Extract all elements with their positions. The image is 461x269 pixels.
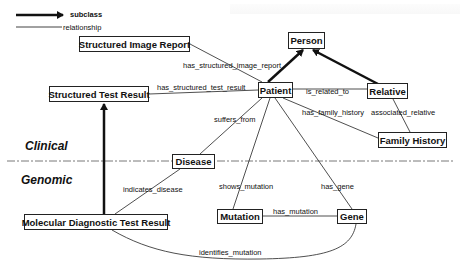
edge-label-identifies-mutation: identifies_mutation bbox=[199, 249, 262, 257]
edge-label-shows-mutation: shows_mutation bbox=[219, 183, 273, 191]
node-relative[interactable]: Relative bbox=[367, 83, 408, 99]
legend-relationship-label: relationship bbox=[63, 23, 101, 32]
node-mutation[interactable]: Mutation bbox=[217, 209, 263, 224]
relative-subclass-person bbox=[313, 50, 378, 84]
section-label-clinical: Clinical bbox=[25, 139, 68, 153]
node-person[interactable]: Person bbox=[288, 32, 325, 49]
node-molecular-diagnostic-test-result[interactable]: Molecular Diagnostic Test Result bbox=[24, 214, 168, 230]
node-gene[interactable]: Gene bbox=[337, 209, 367, 224]
edge-label-has-structured-image-report: has_structured_image_report bbox=[183, 62, 281, 70]
edge-label-is-related-to: is_related_to bbox=[306, 88, 349, 96]
edge-label-has-mutation: has_mutation bbox=[273, 208, 318, 216]
edge-has-family-history bbox=[283, 98, 378, 138]
ontology-diagram: subclass relationship Clinical Genomic S… bbox=[0, 0, 461, 269]
legend-subclass-label: subclass bbox=[70, 10, 102, 19]
node-disease[interactable]: Disease bbox=[172, 154, 215, 169]
node-patient[interactable]: Patient bbox=[258, 82, 293, 98]
edge-suffers-from bbox=[200, 98, 262, 154]
edge-label-associated-relative: associated_relative bbox=[371, 109, 435, 117]
node-family-history[interactable]: Family History bbox=[378, 132, 447, 148]
edge-label-has-structured-test-result: has_structured_test_result bbox=[157, 84, 245, 92]
edge-label-has-family-history: has_family_history bbox=[302, 109, 364, 117]
node-structured-test-result[interactable]: Structured Test Result bbox=[49, 86, 149, 102]
section-label-genomic: Genomic bbox=[21, 173, 72, 187]
node-structured-image-report[interactable]: Structured Image Report bbox=[79, 36, 190, 52]
edge-label-indicates-disease: indicates_disease bbox=[123, 186, 183, 194]
edge-label-suffers-from: suffers_from bbox=[214, 116, 256, 124]
edge-label-has-gene: has_gene bbox=[321, 183, 354, 191]
